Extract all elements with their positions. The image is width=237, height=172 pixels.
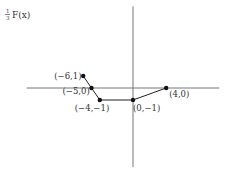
chart: 1 3 F(x) (−6,1)(−5,0)(−4,−1)(0,−1)(4,0) xyxy=(0,0,237,172)
data-label: (0,−1) xyxy=(133,103,160,113)
data-label: (−6,1) xyxy=(54,71,81,81)
data-point xyxy=(131,98,135,102)
data-label: (−5,0) xyxy=(63,86,90,96)
data-point xyxy=(89,86,93,90)
data-label: (−4,−1) xyxy=(75,103,109,113)
series-layer: (−6,1)(−5,0)(−4,−1)(0,−1)(4,0) xyxy=(54,71,189,113)
y-label-text: F(x) xyxy=(12,10,30,20)
y-label-numerator: 1 xyxy=(6,8,10,14)
series-segment xyxy=(133,88,166,100)
data-point xyxy=(98,98,102,102)
data-point xyxy=(81,74,85,78)
data-label: (4,0) xyxy=(169,89,189,99)
y-axis-label: 1 3 F(x) xyxy=(5,8,30,21)
y-label-denominator: 3 xyxy=(6,15,10,21)
data-point xyxy=(164,86,168,90)
